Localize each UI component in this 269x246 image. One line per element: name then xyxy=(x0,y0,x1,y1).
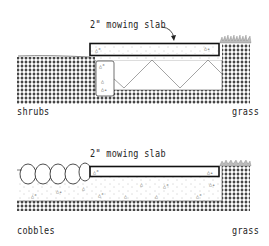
svg-text:△°: △° xyxy=(93,169,99,175)
svg-text:△: △ xyxy=(140,181,143,187)
svg-text:△°: △° xyxy=(95,47,101,53)
top-slab-label: 2" mowing slab xyxy=(90,19,166,31)
bottom-left-label: cobbles xyxy=(17,225,55,237)
svg-text:△ₐ: △ₐ xyxy=(101,86,107,92)
svg-text:△ₐ: △ₐ xyxy=(56,188,62,194)
bottom-slab-label: 2" mowing slab xyxy=(90,148,166,160)
top-section: △° △ △ₐ △° △ₐ xyxy=(17,27,251,104)
svg-text:△ₐ: △ₐ xyxy=(204,45,210,51)
svg-text:△°: △° xyxy=(31,193,37,199)
svg-text:△°: △° xyxy=(196,193,202,199)
svg-text:△ₐ: △ₐ xyxy=(207,169,213,175)
svg-text:△°: △° xyxy=(99,63,105,69)
bottom-section: △°△ₐ△ △°△△ △△°△° △ₐ △° △ₐ xyxy=(17,160,251,211)
top-right-label: grass xyxy=(232,106,259,118)
svg-text:△ₐ: △ₐ xyxy=(209,181,215,187)
top-left-label: shrubs xyxy=(17,106,50,118)
svg-text:△: △ xyxy=(155,193,158,199)
mowing-slab-diagram: △° △ △ₐ △° △ₐ △°△ₐ△ △°△△ △△°△° △ₐ xyxy=(0,0,269,246)
svg-text:△: △ xyxy=(124,193,127,199)
svg-text:△: △ xyxy=(82,185,85,191)
svg-text:△°: △° xyxy=(163,183,169,189)
svg-text:△°: △° xyxy=(98,192,104,198)
bottom-right-label: grass xyxy=(232,225,259,237)
svg-text:△: △ xyxy=(101,78,104,84)
